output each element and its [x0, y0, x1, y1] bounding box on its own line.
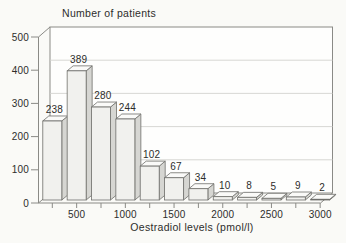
y-tick-label: 0 — [23, 198, 29, 209]
bar-value-label: 238 — [46, 104, 64, 115]
bar-value-label: 389 — [70, 54, 88, 65]
bar-value-label: 67 — [170, 161, 182, 172]
top-left-depth-edge — [39, 27, 51, 37]
x-tick-label: 1500 — [163, 209, 186, 220]
bar-value-label: 280 — [94, 90, 112, 101]
x-axis-title: Oestradiol levels (pmol/l) — [130, 221, 253, 233]
bar-front-face — [213, 197, 232, 200]
x-tick-label: 3000 — [309, 209, 332, 220]
y-tick-label: 200 — [12, 131, 30, 142]
bar-front-face — [262, 198, 281, 200]
bar-value-label: 5 — [271, 181, 277, 192]
x-tick-label: 500 — [68, 209, 86, 220]
bar-front-face — [43, 121, 62, 200]
bar-value-label: 8 — [246, 180, 252, 191]
y-tick-label: 400 — [12, 65, 30, 76]
bar-value-label: 244 — [119, 102, 137, 113]
bar-front-face — [189, 189, 208, 200]
y-tick-label: 300 — [12, 98, 30, 109]
bar-value-label: 10 — [219, 180, 231, 191]
x-tick-label: 2000 — [211, 209, 234, 220]
bar-chart-canvas: 0100200300400500500100015002000250030002… — [0, 0, 346, 243]
bar-value-label: 9 — [295, 180, 301, 191]
bar-front-face — [286, 197, 305, 200]
bar-front-face — [311, 199, 330, 200]
bar-chart-figure: Number of patients 010020030040050050010… — [0, 0, 346, 243]
bar-front-face — [238, 197, 257, 200]
y-tick-label: 500 — [12, 32, 30, 43]
bar-front-face — [140, 166, 159, 200]
bar-front-face — [165, 178, 184, 200]
bar-front-face — [67, 71, 86, 200]
bar-value-label: 102 — [143, 149, 161, 160]
bar-front-face — [92, 107, 111, 200]
y-tick-label: 100 — [12, 164, 30, 175]
bar-value-label: 34 — [195, 172, 207, 183]
x-tick-label: 2500 — [260, 209, 283, 220]
bar-front-face — [116, 119, 135, 200]
bar-value-label: 2 — [319, 182, 325, 193]
x-tick-label: 1000 — [114, 209, 137, 220]
